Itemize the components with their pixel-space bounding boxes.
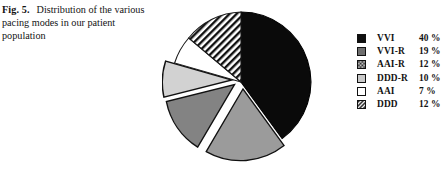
legend-label-vvi: VVI	[377, 32, 395, 45]
legend-item-aai[interactable]: AAI 7 %	[357, 85, 445, 98]
figure-container: Fig. 5.Distribution of the various pacin…	[0, 0, 446, 177]
diagonal-hatch-swatch-icon	[357, 100, 366, 109]
pie-chart	[162, 2, 320, 177]
legend-value-ddd: 12 %	[419, 98, 441, 111]
legend-label-aair: AAI-R	[377, 58, 405, 71]
legend-value-vvir: 19 %	[419, 45, 441, 58]
legend-item-aair[interactable]: AAI-R 12 %	[357, 58, 445, 71]
legend-label-vvir: VVI-R	[377, 45, 405, 58]
legend-item-ddd[interactable]: DDD 12 %	[357, 98, 445, 111]
legend-item-vvi[interactable]: VVI 40 %	[357, 32, 445, 45]
medium-gray-swatch-icon	[357, 47, 366, 56]
legend-label-dddr: DDD-R	[377, 72, 408, 85]
figure-caption: Fig. 5.Distribution of the various pacin…	[2, 3, 152, 43]
pie-slices	[162, 12, 311, 161]
chart-legend: VVI 40 % VVI-R 19 % AAI-R 12 % DDD-R 10 …	[357, 32, 445, 111]
pie-chart-svg	[162, 2, 320, 177]
legend-label-ddd: DDD	[377, 98, 398, 111]
white-swatch-icon	[357, 87, 366, 96]
legend-value-aair: 12 %	[419, 58, 441, 71]
legend-item-dddr[interactable]: DDD-R 10 %	[357, 72, 445, 85]
legend-value-dddr: 10 %	[419, 72, 441, 85]
figure-number: Fig. 5.	[2, 4, 30, 15]
solid-black-swatch-icon	[357, 34, 366, 43]
legend-value-aai: 7 %	[419, 85, 436, 98]
dark-stipple-swatch-icon	[357, 60, 366, 69]
light-gray-swatch-icon	[357, 74, 366, 83]
legend-item-vvir[interactable]: VVI-R 19 %	[357, 45, 445, 58]
legend-value-vvi: 40 %	[419, 32, 441, 45]
legend-label-aai: AAI	[377, 85, 395, 98]
